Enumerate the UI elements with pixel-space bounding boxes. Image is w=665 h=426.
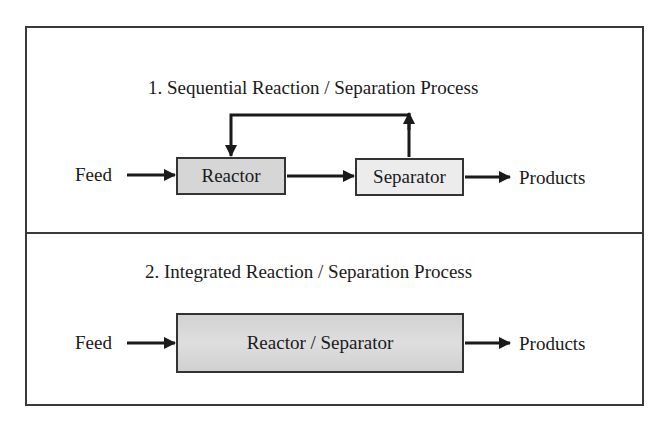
recycle-loop-icon [231,115,409,157]
flow-arrows [0,0,665,426]
